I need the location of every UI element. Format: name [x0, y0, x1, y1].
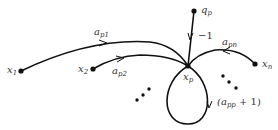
node-qp: [191, 8, 196, 13]
node-xn: [252, 61, 257, 66]
label-edge-ap1: ap1: [94, 27, 109, 39]
node-x1: [18, 68, 23, 73]
label-x1: x1: [7, 65, 17, 77]
ellipsis-dot: [147, 87, 150, 90]
label-edge-self-loop: (app + 1): [217, 97, 261, 109]
ellipsis-dot: [227, 80, 230, 83]
label-edge-minus-one: −1: [198, 31, 213, 41]
edge-xn-xp: [188, 50, 255, 66]
label-qp: qp: [201, 5, 212, 17]
edge-x2-xp: [93, 55, 188, 69]
label-xp: xp: [183, 72, 193, 84]
ellipsis-dot: [221, 74, 224, 77]
ellipsis-dot: [234, 86, 237, 89]
ellipsis-dot: [135, 98, 138, 101]
label-edge-ap2: ap2: [112, 66, 127, 78]
label-edge-apn: apn: [222, 37, 237, 49]
ellipsis-dot: [141, 93, 144, 96]
flow-graph-canvas: [0, 0, 278, 130]
label-xn: xn: [262, 59, 272, 71]
node-x2: [90, 66, 95, 71]
node-xp: [185, 63, 190, 68]
label-x2: x2: [78, 64, 88, 76]
